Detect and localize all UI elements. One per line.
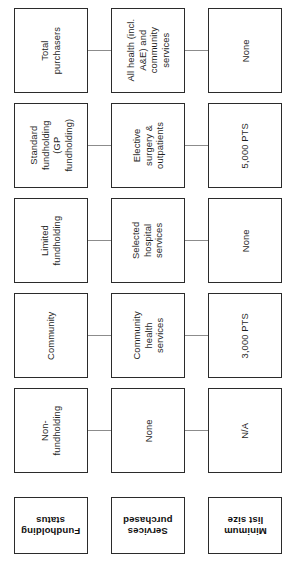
cell-label: None <box>239 39 251 62</box>
header-fundholding-status: Fundholdingstatus <box>14 497 88 554</box>
header-services-purchased: Servicespurchased <box>111 497 185 554</box>
cell-minimum-list-size-standard-fundholding: 5,000 PTS <box>208 103 282 188</box>
cell-label: Limitedfundholding <box>39 216 62 266</box>
cell-minimum-list-size-community: 3,000 PTS <box>208 293 282 378</box>
connector-line <box>185 145 208 146</box>
cell-services-purchased-standard-fundholding: Electivesurgery &outpatients <box>111 103 185 188</box>
cell-label: Totalpurchasers <box>39 27 62 74</box>
cell-services-purchased-non-fundholding: None <box>111 388 185 473</box>
cell-label: 5,000 PTS <box>239 123 251 168</box>
cell-label: Community <box>45 311 57 359</box>
cell-label: Electivesurgery &outpatients <box>131 122 166 169</box>
cell-label: 3,000 PTS <box>239 313 251 358</box>
fundholding-comparison-diagram: Totalpurchasers All health (incl.A&E) an… <box>0 0 300 563</box>
cell-fundholding-status-community: Community <box>14 293 88 378</box>
cell-label: None <box>142 419 154 442</box>
header-label: Servicespurchased <box>123 514 172 537</box>
cell-minimum-list-size-limited-fundholding: None <box>208 198 282 283</box>
connector-line <box>88 240 111 241</box>
cell-fundholding-status-standard-fundholding: Standardfundholding(GPfundholding) <box>14 103 88 188</box>
header-label: Fundholdingstatus <box>21 514 80 537</box>
cell-label: N/A <box>239 423 251 439</box>
connector-line <box>88 50 111 51</box>
cell-services-purchased-limited-fundholding: Selectedhospitalservices <box>111 198 185 283</box>
cell-fundholding-status-non-fundholding: Non-fundholding <box>14 388 88 473</box>
cell-label: Non-fundholding <box>39 406 62 456</box>
connector-line <box>185 50 208 51</box>
cell-services-purchased-total-purchasers: All health (incl.A&E) andcommunityservic… <box>111 8 185 93</box>
cell-services-purchased-community: Communityhealthservices <box>111 293 185 378</box>
header-minimum-list-size: Minimumlist size <box>208 497 282 554</box>
cell-fundholding-status-limited-fundholding: Limitedfundholding <box>14 198 88 283</box>
cell-minimum-list-size-non-fundholding: N/A <box>208 388 282 473</box>
connector-line <box>88 335 111 336</box>
connector-line <box>88 430 111 431</box>
header-label: Minimumlist size <box>224 514 267 537</box>
cell-label: Communityhealthservices <box>131 311 166 359</box>
cell-label: Standardfundholding(GPfundholding) <box>28 119 74 172</box>
cell-label: Selectedhospitalservices <box>131 222 166 259</box>
connector-line <box>185 430 208 431</box>
connector-line <box>185 240 208 241</box>
connector-line <box>185 335 208 336</box>
connector-line <box>88 145 111 146</box>
cell-label: All health (incl.A&E) andcommunityservic… <box>125 19 171 82</box>
cell-label: None <box>239 229 251 252</box>
cell-fundholding-status-total-purchasers: Totalpurchasers <box>14 8 88 93</box>
cell-minimum-list-size-total-purchasers: None <box>208 8 282 93</box>
